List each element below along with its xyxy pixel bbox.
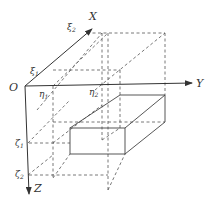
- x-axis: [25, 29, 92, 86]
- origin-label: O: [9, 81, 18, 94]
- x-axis-label: X: [88, 10, 98, 23]
- zeta2-label: ζ2: [15, 169, 24, 180]
- y-axis: [25, 83, 192, 86]
- xi1-label: ξ1: [30, 66, 39, 77]
- prism-coordinate-diagram: O X Y Z ξ1 ξ2 η1 η2 ζ1 ζ2: [0, 0, 215, 205]
- z-axis-label: Z: [33, 182, 42, 195]
- z-axis: [25, 86, 29, 194]
- y-axis-label: Y: [196, 77, 205, 90]
- xi2-label: ξ2: [67, 22, 76, 33]
- zeta1-label: ζ1: [15, 138, 24, 149]
- solid-box: [70, 95, 165, 154]
- axes: [25, 29, 192, 194]
- eta1-label: η1: [39, 89, 48, 100]
